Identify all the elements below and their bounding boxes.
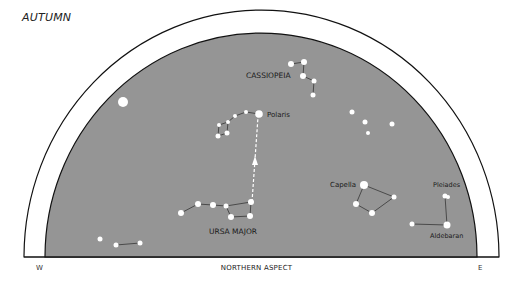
label-cassiopeia: CASSIOPEIA xyxy=(246,71,291,80)
aspect-label: NORTHERN ASPECT xyxy=(0,264,513,272)
label-pleiades: Pleiades xyxy=(433,181,461,189)
star-chart: CASSIOPEIA Polaris URSA MAJOR Capella Pl… xyxy=(0,0,513,282)
label-capella: Capella xyxy=(330,181,356,189)
label-ursa-major: URSA MAJOR xyxy=(209,227,257,236)
label-aldebaran: Aldebaran xyxy=(430,232,463,240)
label-polaris: Polaris xyxy=(267,111,290,119)
east-label: E xyxy=(478,264,482,272)
